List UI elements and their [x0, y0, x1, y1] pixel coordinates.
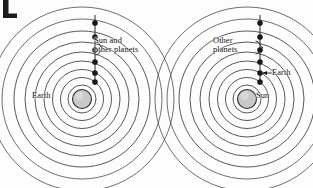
sun-center-body [238, 90, 257, 109]
heliocentric-model [155, 7, 313, 188]
heliocentric-orbit-rings [155, 7, 313, 188]
corner-mark-glyph [3, 0, 17, 18]
geocentric-model [0, 7, 174, 188]
diagram-vector-layer [0, 0, 313, 188]
earth-center-body [73, 90, 92, 109]
figure-canvas: Sun and other planets Earth Other planet… [0, 0, 313, 188]
